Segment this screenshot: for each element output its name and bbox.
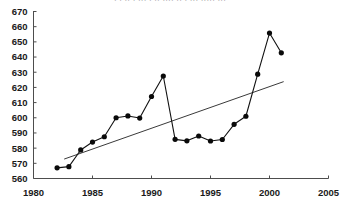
data-point-marker: [267, 30, 272, 35]
data-point-marker: [78, 147, 83, 152]
y-tick-label: 630: [12, 67, 28, 78]
data-point-marker: [173, 137, 178, 142]
y-tick-label: 640: [12, 51, 28, 62]
data-point-marker: [90, 139, 95, 144]
y-tick-label: 610: [12, 97, 28, 108]
data-point-markers: [55, 30, 284, 170]
data-point-marker: [232, 122, 237, 127]
x-tick-label: 1995: [200, 187, 222, 198]
data-series-line: [57, 33, 281, 168]
x-tick-label: 1985: [82, 187, 104, 198]
y-tick-label: 560: [12, 173, 28, 184]
data-point-marker: [125, 113, 130, 118]
chart-figure: · · ·· · ··· · ·· ···· ·· · ··· ····· ··…: [0, 0, 340, 211]
y-tick-label: 580: [12, 143, 28, 154]
data-point-marker: [184, 138, 189, 143]
y-tick-label: 650: [12, 36, 28, 47]
data-point-marker: [220, 137, 225, 142]
data-point-marker: [255, 72, 260, 77]
x-tick-label: 1980: [23, 187, 44, 198]
x-axis-tick-labels: 198019851990199520002005: [23, 187, 340, 198]
x-tick-label: 1990: [141, 187, 162, 198]
x-tick-label: 2000: [259, 187, 280, 198]
y-axis-tick-labels: 560570580590600610620630640650660670: [12, 6, 28, 184]
data-point-marker: [102, 134, 107, 139]
data-point-marker: [161, 73, 166, 78]
data-point-marker: [279, 50, 284, 55]
y-tick-label: 590: [12, 127, 28, 138]
trend-line: [64, 82, 283, 159]
data-point-marker: [55, 165, 60, 170]
data-point-marker: [196, 133, 201, 138]
y-tick-label: 660: [12, 21, 28, 32]
data-point-marker: [137, 115, 142, 120]
y-tick-label: 620: [12, 82, 28, 93]
y-tick-label: 670: [12, 6, 28, 17]
data-point-marker: [66, 164, 71, 169]
line-chart: 560570580590600610620630640650660670 198…: [0, 0, 340, 211]
y-tick-label: 570: [12, 158, 28, 169]
y-tick-label: 600: [12, 112, 28, 123]
x-tick-label: 2005: [318, 187, 340, 198]
data-point-marker: [208, 138, 213, 143]
data-point-marker: [149, 94, 154, 99]
data-point-marker: [114, 115, 119, 120]
data-point-marker: [243, 114, 248, 119]
